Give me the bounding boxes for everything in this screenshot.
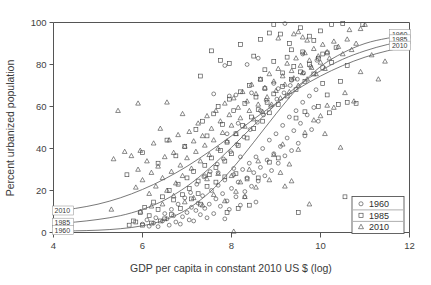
data-point — [316, 119, 320, 123]
y-tick-label: 60 — [36, 101, 47, 112]
data-point — [296, 141, 300, 145]
data-point — [256, 159, 261, 163]
data-point — [185, 176, 189, 180]
data-point — [318, 113, 323, 117]
y-tick-label: 100 — [31, 17, 47, 28]
data-point — [289, 179, 294, 183]
data-point — [278, 170, 283, 174]
legend-label-1985[interactable]: 1985 — [369, 211, 389, 221]
data-point — [285, 136, 289, 140]
data-point — [285, 55, 289, 59]
data-point — [263, 68, 267, 72]
data-point — [252, 171, 256, 175]
data-point — [243, 190, 247, 194]
data-point — [223, 217, 227, 221]
data-point — [280, 142, 285, 146]
data-point — [336, 102, 340, 106]
data-point — [203, 174, 207, 178]
data-point — [276, 66, 281, 70]
data-point — [187, 218, 191, 222]
data-point — [129, 153, 134, 157]
legend[interactable]: 196019852010 — [352, 197, 404, 234]
data-point — [345, 100, 349, 104]
data-point — [330, 23, 334, 27]
data-point — [133, 185, 138, 189]
data-point — [332, 105, 337, 109]
data-point — [307, 94, 311, 98]
legend-label-2010[interactable]: 2010 — [369, 222, 389, 232]
data-point — [299, 121, 303, 125]
data-point — [163, 212, 167, 216]
data-point — [116, 108, 121, 112]
data-point — [290, 149, 294, 153]
data-point — [182, 200, 187, 204]
data-point — [307, 58, 312, 62]
data-point — [267, 138, 271, 142]
data-point — [185, 211, 189, 215]
data-point — [296, 147, 301, 151]
data-point — [312, 38, 316, 42]
data-point — [283, 184, 288, 188]
data-point — [314, 88, 318, 92]
data-point — [211, 192, 216, 196]
data-point — [294, 109, 298, 113]
data-point — [176, 132, 181, 136]
data-point — [145, 159, 150, 163]
data-point — [136, 101, 141, 105]
y-tick-label: 40 — [36, 143, 47, 154]
y-tick-label: 0 — [41, 227, 46, 238]
curve-label-left-1985: 1985 — [55, 219, 71, 226]
data-point — [247, 161, 251, 165]
data-point — [354, 41, 359, 45]
x-axis: 4681012 — [51, 233, 415, 251]
data-point — [162, 154, 167, 158]
data-point — [218, 204, 222, 208]
data-point — [311, 46, 316, 50]
data-point — [149, 170, 154, 174]
data-point — [256, 56, 260, 60]
curve-label-left-1960: 1960 — [55, 227, 71, 234]
y-axis-title: Percent urbanized population — [4, 60, 16, 197]
data-point — [310, 128, 314, 132]
data-point — [292, 65, 296, 69]
data-point — [198, 213, 202, 217]
data-point — [281, 123, 285, 127]
data-point — [223, 64, 227, 68]
data-point — [172, 198, 176, 202]
data-point — [238, 116, 243, 120]
data-point — [201, 119, 205, 123]
data-point — [274, 132, 278, 136]
data-point — [189, 191, 193, 195]
data-point — [198, 74, 202, 78]
data-point — [250, 184, 254, 188]
data-point — [339, 79, 343, 83]
data-point — [169, 207, 173, 211]
data-point — [312, 106, 316, 110]
x-tick-label: 12 — [404, 240, 415, 251]
data-point — [256, 102, 261, 106]
data-point — [283, 154, 287, 158]
data-point — [319, 29, 323, 33]
data-point — [127, 223, 131, 227]
data-point — [167, 223, 171, 227]
data-point — [147, 214, 151, 218]
data-point — [181, 215, 185, 219]
data-point — [225, 132, 229, 136]
data-point — [222, 101, 227, 105]
data-point — [234, 93, 238, 97]
data-point — [287, 115, 291, 119]
data-point — [258, 165, 262, 169]
data-point — [234, 189, 239, 193]
data-point — [122, 149, 127, 153]
data-point — [136, 167, 141, 171]
data-point — [209, 126, 214, 130]
data-point — [272, 23, 276, 27]
y-tick-label: 20 — [36, 185, 47, 196]
data-point — [238, 43, 242, 47]
data-point — [147, 191, 152, 195]
data-point — [241, 168, 245, 172]
data-point — [194, 209, 198, 213]
data-point — [321, 52, 325, 56]
data-point — [332, 39, 337, 43]
legend-label-1960[interactable]: 1960 — [369, 199, 389, 209]
